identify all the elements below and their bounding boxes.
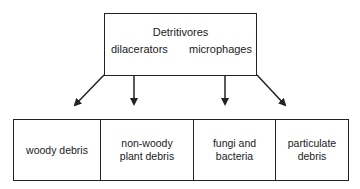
non-woody-plant-debris-label: non-woody plant debris bbox=[112, 137, 182, 163]
non-woody-plant-debris-node: non-woody plant debris bbox=[101, 120, 194, 180]
detritivores-node: Detritivores dilacerators microphages bbox=[104, 13, 257, 76]
particulate-debris-node: particulate debris bbox=[276, 120, 348, 180]
woody-debris-node: woody debris bbox=[14, 120, 101, 180]
fungi-and-bacteria-label: fungi and bacteria bbox=[205, 137, 265, 163]
arrow-to-woody-debris bbox=[75, 75, 104, 105]
particulate-debris-label: particulate debris bbox=[285, 137, 340, 163]
detritivores-title: Detritivores bbox=[105, 26, 256, 38]
resource-nodes-row: woody debris non-woody plant debris fung… bbox=[13, 119, 349, 181]
microphages-label: microphages bbox=[189, 43, 252, 55]
fungi-and-bacteria-node: fungi and bacteria bbox=[194, 120, 276, 180]
dilacerators-label: dilacerators bbox=[111, 43, 168, 55]
arrow-to-particulate-debris bbox=[257, 75, 285, 105]
